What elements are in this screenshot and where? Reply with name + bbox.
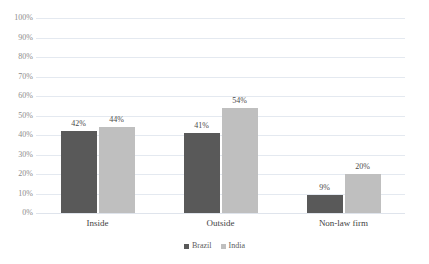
y-axis-tick-label: 10% xyxy=(1,190,33,198)
bar-value-label: 9% xyxy=(307,184,343,192)
bars-layer: Inside42%44%Outside41%54%Non-law firm9%2… xyxy=(36,18,405,213)
bar-brazil-non-law-firm xyxy=(307,195,343,213)
x-axis-category-label: Outside xyxy=(184,219,258,228)
bar-india-outside xyxy=(222,108,258,213)
y-axis-tick-label: 100% xyxy=(1,14,33,22)
y-axis-tick-label: 50% xyxy=(1,112,33,120)
bar-value-label: 54% xyxy=(222,97,258,105)
bar-brazil-outside xyxy=(184,133,220,213)
legend-swatch-icon xyxy=(221,244,226,249)
gridline xyxy=(36,213,405,214)
y-axis-tick-label: 70% xyxy=(1,73,33,81)
bar-value-label: 42% xyxy=(61,120,97,128)
y-axis-tick-label: 90% xyxy=(1,34,33,42)
bar-group: 9%20% xyxy=(307,18,381,213)
bar-group: 41%54% xyxy=(184,18,258,213)
bar-group: 42%44% xyxy=(61,18,135,213)
bar-value-label: 44% xyxy=(99,116,135,124)
y-axis-tick-label: 60% xyxy=(1,92,33,100)
bar-brazil-inside xyxy=(61,131,97,213)
y-axis-tick-label: 30% xyxy=(1,151,33,159)
legend-label: Brazil xyxy=(192,242,212,250)
x-axis-category-label: Inside xyxy=(61,219,135,228)
y-axis-tick-label: 0% xyxy=(1,209,33,217)
y-axis-tick-label: 20% xyxy=(1,170,33,178)
legend-label: India xyxy=(229,242,245,250)
chart-legend: BrazilIndia xyxy=(0,242,429,250)
legend-swatch-icon xyxy=(184,244,189,249)
y-axis-tick-label: 40% xyxy=(1,131,33,139)
bar-chart: 100%90%80%70%60%50%40%30%20%10%0% Inside… xyxy=(0,0,429,264)
x-axis-category-label: Non-law firm xyxy=(307,219,381,228)
y-axis-tick-label: 80% xyxy=(1,53,33,61)
bar-value-label: 20% xyxy=(345,163,381,171)
bar-india-inside xyxy=(99,127,135,213)
bar-value-label: 41% xyxy=(184,122,220,130)
legend-item-india[interactable]: India xyxy=(221,242,245,250)
y-axis: 100%90%80%70%60%50%40%30%20%10%0% xyxy=(0,18,33,213)
legend-item-brazil[interactable]: Brazil xyxy=(184,242,212,250)
bar-india-non-law-firm xyxy=(345,174,381,213)
